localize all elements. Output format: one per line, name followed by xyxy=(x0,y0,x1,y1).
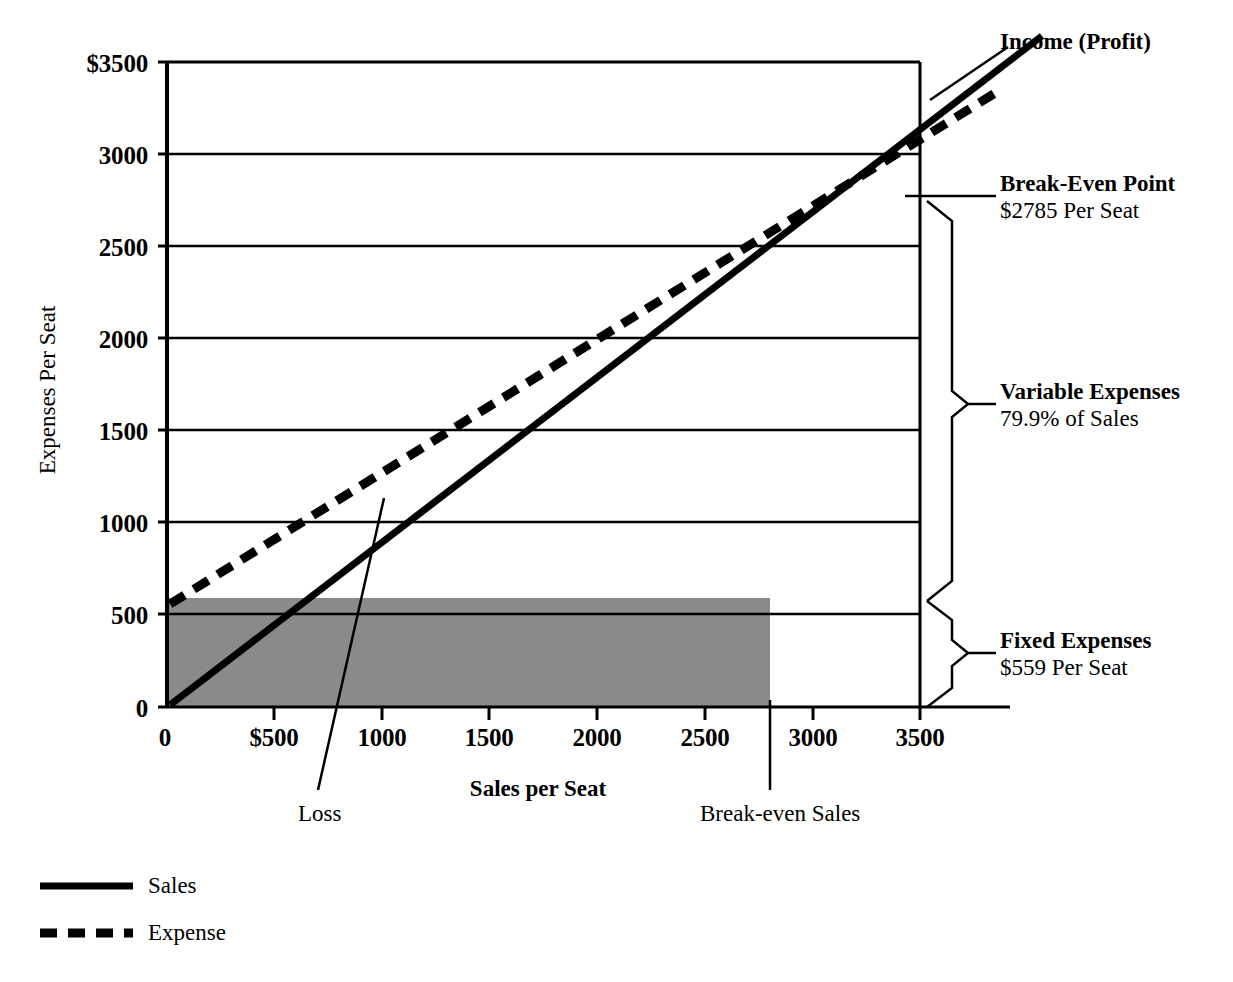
x-tick-label-0: 0 xyxy=(115,723,215,753)
x-tick-label-1500: 1500 xyxy=(439,723,539,753)
x-tick-marks xyxy=(274,707,920,720)
break-even-chart: $3500 3000 2500 2000 1500 1000 500 0 0 $… xyxy=(0,0,1233,982)
annotation-break-even-point: Break-Even Point $2785 Per Seat xyxy=(1000,170,1175,224)
annotation-break-even-point-title: Break-Even Point xyxy=(1000,170,1175,197)
x-tick-label-2500: 2500 xyxy=(655,723,755,753)
x-tick-label-3000: 3000 xyxy=(763,723,863,753)
annotation-fixed-expenses-title: Fixed Expenses xyxy=(1000,627,1151,654)
x-axis-title: Sales per Seat xyxy=(388,775,688,802)
x-tick-label-500: $500 xyxy=(224,723,324,753)
annotation-loss: Loss xyxy=(298,800,341,827)
chart-canvas xyxy=(0,0,1233,982)
x-tick-label-2000: 2000 xyxy=(547,723,647,753)
y-tick-label-3500: $3500 xyxy=(28,49,148,79)
expense-line xyxy=(170,90,1000,604)
y-axis-title: Expenses Per Seat xyxy=(34,240,61,540)
fixed-expenses-brace xyxy=(927,601,996,707)
y-tick-label-0: 0 xyxy=(28,694,148,724)
annotation-variable-expenses-title: Variable Expenses xyxy=(1000,378,1180,405)
annotation-fixed-expenses-value: $559 Per Seat xyxy=(1000,654,1151,681)
y-tick-label-500: 500 xyxy=(28,601,148,631)
legend-label-sales: Sales xyxy=(148,872,197,899)
annotation-variable-expenses: Variable Expenses 79.9% of Sales xyxy=(1000,378,1180,432)
variable-expenses-brace xyxy=(927,201,996,601)
annotation-variable-expenses-value: 79.9% of Sales xyxy=(1000,405,1180,432)
x-tick-label-1000: 1000 xyxy=(332,723,432,753)
legend-label-expense: Expense xyxy=(148,919,226,946)
annotation-fixed-expenses: Fixed Expenses $559 Per Seat xyxy=(1000,627,1151,681)
annotation-break-even-point-value: $2785 Per Seat xyxy=(1000,197,1175,224)
y-tick-label-3000: 3000 xyxy=(28,141,148,171)
x-tick-label-3500: 3500 xyxy=(870,723,970,753)
annotation-break-even-sales: Break-even Sales xyxy=(700,800,860,827)
gridlines xyxy=(167,154,920,614)
annotation-income-profit: Income (Profit) xyxy=(1000,28,1151,55)
